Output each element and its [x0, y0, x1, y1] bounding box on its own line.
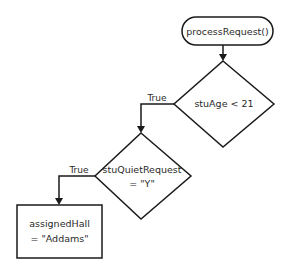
process-label-line1: assignedHall	[29, 218, 90, 229]
edge-true-label-1: True	[146, 93, 167, 103]
assign-hall-process: assignedHall = "Addams"	[17, 205, 102, 258]
decision-quiet-label-line1: stuQuietRequest	[103, 164, 182, 175]
edge-start-to-decision1	[219, 45, 227, 61]
edge-decision2-true: True	[55, 165, 95, 205]
decision-age-label: stuAge < 21	[194, 98, 253, 109]
arrowhead-icon	[137, 126, 145, 133]
decision-quiet-label-line2: = "Y"	[129, 178, 155, 189]
process-label-line2: = "Addams"	[30, 233, 88, 244]
start-terminal: processRequest()	[182, 17, 273, 45]
decision-quiet-diamond: stuQuietRequest = "Y"	[95, 133, 191, 219]
arrowhead-icon	[219, 54, 227, 61]
start-terminal-label: processRequest()	[186, 26, 269, 37]
edge-decision1-true: True	[137, 93, 174, 133]
decision-age-diamond: stuAge < 21	[174, 61, 274, 147]
edge-true-label-2: True	[68, 165, 89, 175]
flowchart-canvas: processRequest() stuAge < 21 True stuQui…	[0, 0, 289, 271]
arrowhead-icon	[55, 198, 63, 205]
